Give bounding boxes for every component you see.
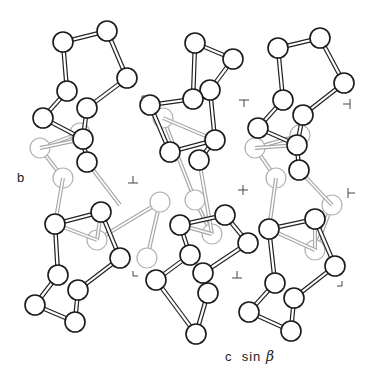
symmetry-marker-icon xyxy=(128,176,138,183)
front-atom xyxy=(223,49,243,69)
crystal-structure-diagram xyxy=(0,0,374,378)
back-atom xyxy=(150,192,170,212)
front-atom xyxy=(140,95,160,115)
back-atom xyxy=(137,248,157,268)
front-atom xyxy=(193,263,213,283)
front-atom xyxy=(97,21,117,41)
front-atom xyxy=(238,233,258,253)
front-atom xyxy=(281,321,301,341)
front-atom xyxy=(117,68,137,88)
front-atom xyxy=(180,245,200,265)
front-atom xyxy=(91,202,111,222)
front-atom xyxy=(73,129,93,149)
front-atom xyxy=(205,130,225,150)
front-atom xyxy=(110,248,130,268)
beta-symbol: β xyxy=(266,348,275,364)
front-atom xyxy=(77,152,97,172)
front-atom xyxy=(215,205,235,225)
front-atom xyxy=(289,160,309,180)
front-atom xyxy=(325,256,345,276)
axis-label-b: b xyxy=(17,170,24,185)
front-atom xyxy=(183,89,203,109)
front-atom xyxy=(68,280,88,300)
symmetry-marker-icon xyxy=(238,185,248,195)
front-atom xyxy=(334,73,354,93)
front-atom xyxy=(25,295,45,315)
front-atom xyxy=(160,142,180,162)
front-atom xyxy=(287,135,307,155)
front-atom xyxy=(248,118,268,138)
symmetry-marker-icon xyxy=(232,271,242,278)
front-atom xyxy=(284,288,304,308)
symmetry-marker-icon xyxy=(343,99,350,109)
front-atom xyxy=(273,90,293,110)
front-atom xyxy=(265,273,285,293)
front-atom xyxy=(259,219,279,239)
axis-label-c-text: c sin xyxy=(225,349,266,364)
front-atom xyxy=(268,38,288,58)
front-atom xyxy=(310,28,330,48)
symmetry-marker-icon xyxy=(337,281,342,286)
front-atom xyxy=(77,98,97,118)
front-atom xyxy=(45,214,65,234)
axis-label-b-text: b xyxy=(17,170,24,185)
front-atom xyxy=(65,312,85,332)
front-atom xyxy=(170,215,190,235)
front-atom xyxy=(293,105,313,125)
symmetry-marker-icon xyxy=(239,100,249,107)
symmetry-marker-icon xyxy=(348,188,355,198)
front-atom xyxy=(48,265,68,285)
front-atom xyxy=(57,81,77,101)
front-atom xyxy=(53,32,73,52)
front-atom xyxy=(198,283,218,303)
front-atom xyxy=(186,324,206,344)
front-atom xyxy=(185,33,205,53)
back-atom xyxy=(185,190,205,210)
front-atom xyxy=(305,209,325,229)
front-atom xyxy=(33,108,53,128)
axis-label-c-sin-beta: c sin β xyxy=(225,348,275,364)
front-atom xyxy=(189,150,209,170)
front-atom xyxy=(146,270,166,290)
symmetry-marker-icon xyxy=(133,271,138,276)
front-atom xyxy=(239,302,259,322)
